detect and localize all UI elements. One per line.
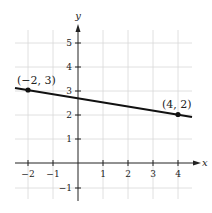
point-label-a: (−2, 3) (17, 74, 56, 87)
x-tick-label: −1 (46, 169, 59, 179)
y-tick-label: 1 (66, 134, 72, 144)
y-tick-label: 2 (66, 110, 72, 120)
y-tick-label: 3 (66, 86, 72, 96)
graph: −2 −1 1 2 3 4 5 4 3 2 1 −1 x y (−2, 3) (… (0, 0, 212, 213)
point-marker (175, 112, 180, 117)
x-tick-label: 4 (175, 169, 181, 179)
x-axis-label: x (202, 157, 208, 168)
y-tick-label: −1 (59, 183, 72, 193)
x-tick-label: 3 (150, 169, 156, 179)
y-axis-label: y (74, 10, 81, 21)
x-tick-label: 1 (100, 169, 106, 179)
x-axis-arrow-icon (193, 161, 201, 166)
x-tick-label: −2 (21, 169, 34, 179)
point-marker (25, 87, 30, 92)
point-label-b: (4, 2) (162, 98, 192, 111)
y-tick-label: 4 (66, 62, 72, 72)
x-tick-label: 2 (125, 169, 131, 179)
y-tick-label: 5 (66, 38, 72, 48)
y-axis-arrow-icon (76, 24, 81, 32)
